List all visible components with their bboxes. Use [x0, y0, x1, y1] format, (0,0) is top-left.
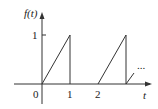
x-tick-label-1: 1: [67, 88, 73, 100]
signal-period-1: [42, 35, 70, 84]
x-tick-label-2: 2: [95, 88, 101, 100]
x-axis-arrow-icon: [145, 82, 152, 87]
x-tick-label-0: 0: [33, 88, 39, 100]
y-axis-arrow-icon: [40, 12, 45, 19]
signal-period-2: [98, 35, 134, 84]
y-tick-label: 1: [32, 29, 38, 41]
y-axis-label: f(t): [24, 7, 38, 20]
signal-diagram: f(t) 1 0 1 2 t ...: [0, 0, 158, 109]
continuation-ellipsis: ...: [137, 59, 146, 71]
x-axis-label: t: [143, 89, 147, 101]
